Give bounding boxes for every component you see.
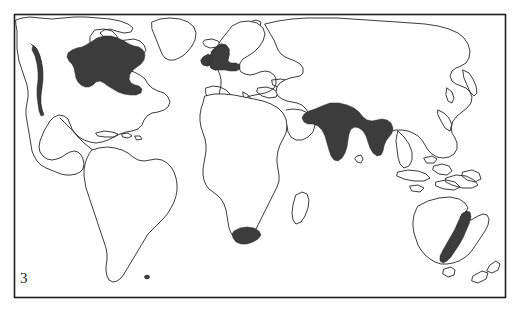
coastline-greenland (152, 18, 196, 60)
coastline-tasmania (443, 267, 455, 277)
coastline-indonesia (397, 156, 481, 192)
coastline-new-zealand (472, 261, 500, 283)
coastline-southeast-asia (396, 131, 412, 168)
island-falklands-marker (144, 275, 149, 279)
coastline-sri-lanka (355, 155, 363, 163)
shaded-region-south-africa-cape (232, 227, 261, 244)
coastline-south-america (84, 147, 177, 282)
coastline-africa (200, 94, 287, 240)
coastline-madagascar (292, 192, 309, 224)
world-map (0, 0, 524, 315)
figure-container: 3 (0, 0, 524, 315)
figure-number-label: 3 (20, 271, 28, 286)
